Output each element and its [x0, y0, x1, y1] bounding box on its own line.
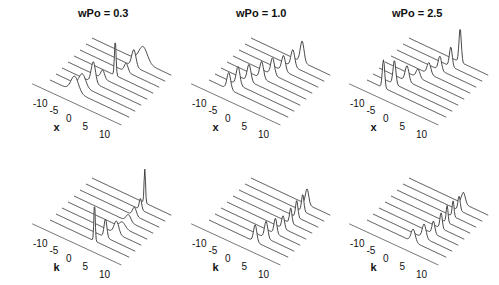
x-tick-label: -10 — [192, 238, 207, 249]
x-tick-label: 0 — [383, 253, 389, 264]
x-tick-label: -5 — [50, 245, 59, 256]
panel-wpo-2-5-momentum: -10-50510k — [329, 140, 499, 282]
panel-wpo-1-0-momentum: -10-50510k — [160, 140, 330, 282]
x-tick-label: 5 — [83, 261, 89, 272]
x-tick-label: 10 — [416, 129, 428, 140]
x-tick-label: -5 — [367, 105, 376, 116]
x-tick-label: -10 — [33, 238, 48, 249]
x-tick-label: 5 — [83, 121, 89, 132]
x-tick-label: 10 — [258, 269, 270, 280]
x-tick-label: 10 — [258, 129, 270, 140]
panel-wpo-0-3-position: wPo = 0.3 -10-50510x — [0, 0, 170, 142]
x-tick-label: 5 — [400, 261, 406, 272]
panel-wpo-1-0-position: wPo = 1.0 -10-50510x — [160, 0, 330, 142]
x-tick-label: 5 — [400, 121, 406, 132]
panel-wpo-0-3-momentum: -10-50510k — [0, 140, 170, 282]
x-axis-label: k — [370, 261, 377, 273]
trace-line — [50, 76, 129, 117]
x-tick-label: -10 — [192, 98, 207, 109]
x-axis-label: x — [370, 121, 377, 133]
waterfall-plot: -10-50510x — [0, 0, 170, 142]
x-tick-label: 0 — [225, 113, 231, 124]
x-tick-label: 10 — [99, 129, 111, 140]
x-tick-label: -5 — [50, 105, 59, 116]
x-tick-label: -10 — [350, 238, 365, 249]
x-tick-label: 5 — [242, 261, 248, 272]
x-tick-label: -5 — [209, 245, 218, 256]
x-tick-label: 10 — [416, 269, 428, 280]
waterfall-plot: -10-50510x — [160, 0, 330, 142]
waterfall-plot: -10-50510k — [0, 140, 170, 282]
x-tick-label: -5 — [367, 245, 376, 256]
x-tick-label: 5 — [242, 121, 248, 132]
x-tick-label: -5 — [209, 105, 218, 116]
x-tick-label: 0 — [225, 253, 231, 264]
waterfall-plot: -10-50510x — [329, 0, 499, 142]
x-tick-label: -10 — [350, 98, 365, 109]
x-axis-label: x — [53, 121, 60, 133]
x-tick-label: 0 — [383, 113, 389, 124]
waterfall-plot: -10-50510k — [160, 140, 330, 282]
x-tick-label: -10 — [33, 98, 48, 109]
x-tick-label: 10 — [99, 269, 111, 280]
x-axis-label: k — [212, 261, 219, 273]
x-tick-label: 0 — [66, 253, 72, 264]
x-tick-label: 0 — [66, 113, 72, 124]
x-axis-label: k — [53, 261, 60, 273]
panel-wpo-2-5-position: wPo = 2.5 -10-50510x — [329, 0, 499, 142]
waterfall-plot: -10-50510k — [329, 140, 499, 282]
x-axis-label: x — [212, 121, 219, 133]
